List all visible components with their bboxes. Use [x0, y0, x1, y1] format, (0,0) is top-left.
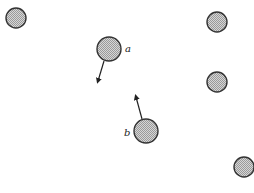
label-b: b: [124, 127, 130, 138]
velocity-arrow-a: [98, 61, 104, 81]
particle-1: [6, 8, 26, 28]
particle-6: [234, 157, 254, 177]
particle-b: [134, 119, 158, 143]
velocity-arrow-b: [136, 97, 142, 119]
particle-a: [97, 37, 121, 61]
particle-3: [207, 12, 227, 32]
particle-4: [207, 72, 227, 92]
particle-diagram: a b: [0, 0, 254, 193]
label-a: a: [125, 43, 131, 54]
